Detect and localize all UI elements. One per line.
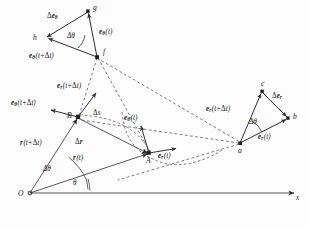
point-label-origin: O <box>18 190 23 198</box>
vector-label-delta-r: Δr <box>75 139 82 146</box>
point-label-B: B <box>67 112 72 120</box>
figure-canvas: O A B f g h a b c x θ Δθ Δθ Δθ Δeθ eθ (t… <box>0 0 309 229</box>
angle-label-delta-theta-top: Δθ <box>67 33 75 40</box>
delta-r-vector <box>78 118 148 153</box>
x-axis-label: x <box>296 195 299 202</box>
angle-label-delta-theta-origin: Δθ <box>43 166 51 173</box>
vector-label-e-r-t-dt-right: er (t+Δt) <box>206 106 230 113</box>
vector-label-delta-s: Δs <box>93 110 100 117</box>
vector-label-r-t-dt: r (t+Δt) <box>20 140 42 147</box>
point-label-b: b <box>293 113 297 121</box>
angle-label-delta-theta-right: Δθ <box>249 119 257 126</box>
vector-label-e-r-t-A: er (t) <box>158 153 171 160</box>
construction-line-f-to-B <box>79 58 97 116</box>
vector-label-delta-e-theta: Δeθ <box>47 13 58 20</box>
angle-label-theta: θ <box>73 180 77 187</box>
point-label-h: h <box>33 34 37 42</box>
point-label-g: g <box>93 4 97 12</box>
construction-line-a-lower-left <box>118 144 239 180</box>
point-marker-A <box>147 151 151 155</box>
vector-label-e-r-t-dt-B: er (t+Δt) <box>57 83 81 90</box>
construction-line-f-to-a <box>97 58 240 142</box>
diagram-svg <box>0 0 309 229</box>
vector-label-r-t: r (t) <box>73 155 83 162</box>
vector-label-e-r-t-right: er (t) <box>258 134 271 141</box>
point-label-a: a <box>238 147 242 155</box>
point-label-A: A <box>146 157 151 165</box>
vector-label-e-theta-t-A: eθ (t) <box>124 115 137 122</box>
position-vector-r-t <box>30 154 148 193</box>
angle-theta-arc <box>87 179 91 191</box>
vector-label-e-theta-t-dt-top: eθ (t+Δt) <box>29 53 54 60</box>
delta-s-arc <box>80 115 149 150</box>
construction-line-f-to-A <box>98 58 150 152</box>
vector-label-e-theta-t-top: eθ (t) <box>99 29 112 36</box>
unit-vector-e-theta-at-B <box>51 110 78 117</box>
point-label-c: c <box>261 80 264 88</box>
vector-label-delta-e-r: Δer <box>272 93 282 100</box>
point-label-f: f <box>103 48 105 56</box>
vector-label-e-theta-t-dt-B: eθ (t+Δt) <box>11 100 36 107</box>
position-vector-r-t-dt <box>30 119 77 193</box>
